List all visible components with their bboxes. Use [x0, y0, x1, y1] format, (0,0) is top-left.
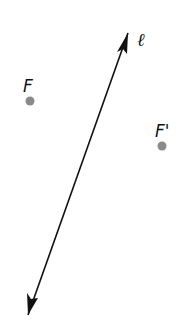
point-f-prime: [158, 142, 167, 151]
point-f-prime-label: F': [155, 121, 169, 141]
arrowhead-bottom-icon: [27, 293, 38, 315]
point-f-label: F: [23, 76, 33, 96]
line-l: [28, 33, 128, 315]
point-f: [26, 97, 35, 106]
line-label: ℓ: [137, 29, 145, 50]
diagram-canvas: ℓ F F': [0, 0, 184, 335]
